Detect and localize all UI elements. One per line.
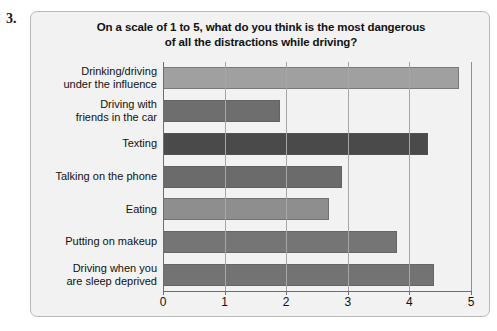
bar-row <box>163 133 471 155</box>
x-tick-label: 5 <box>468 295 475 309</box>
bar <box>163 166 342 188</box>
x-tick-label: 1 <box>221 295 228 309</box>
bar <box>163 264 434 286</box>
category-label: Texting <box>31 137 157 150</box>
bar-series <box>163 62 471 291</box>
bar-row <box>163 231 471 253</box>
chart-title-line-2: of all the distractions while driving? <box>45 35 477 50</box>
category-label: Putting on makeup <box>31 235 157 248</box>
category-label-line: Driving when you <box>31 262 157 275</box>
question-number: 3. <box>6 11 17 27</box>
category-label-line: under the influence <box>31 78 157 91</box>
category-label: Eating <box>31 203 157 216</box>
bar <box>163 67 459 89</box>
category-label-line: Driving with <box>31 98 157 111</box>
category-axis-labels: Drinking/drivingunder the influenceDrivi… <box>31 62 161 291</box>
bar <box>163 100 280 122</box>
category-label-line: Drinking/driving <box>31 65 157 78</box>
chart-title: On a scale of 1 to 5, what do you think … <box>45 20 477 50</box>
plot-area <box>163 62 471 291</box>
bar-row <box>163 166 471 188</box>
bar-row <box>163 100 471 122</box>
bar-row <box>163 198 471 220</box>
bar <box>163 133 428 155</box>
category-label: Talking on the phone <box>31 170 157 183</box>
x-tick-label: 2 <box>283 295 290 309</box>
category-label-line: Talking on the phone <box>31 170 157 183</box>
gridline-3 <box>348 62 349 291</box>
category-label: Drinking/drivingunder the influence <box>31 65 157 91</box>
x-tick-label: 3 <box>344 295 351 309</box>
x-tick-label: 4 <box>406 295 413 309</box>
category-label: Driving when youare sleep deprived <box>31 262 157 288</box>
gridline-5 <box>471 62 472 291</box>
category-label: Driving withfriends in the car <box>31 98 157 124</box>
category-label-line: are sleep deprived <box>31 275 157 288</box>
x-axis-tick-labels: 012345 <box>163 295 471 313</box>
category-label-line: friends in the car <box>31 111 157 124</box>
chart-card: On a scale of 1 to 5, what do you think … <box>30 11 490 317</box>
bar <box>163 198 329 220</box>
bar-row <box>163 67 471 89</box>
gridline-4 <box>409 62 410 291</box>
gridline-0 <box>163 62 164 291</box>
category-label-line: Eating <box>31 203 157 216</box>
category-label-line: Texting <box>31 137 157 150</box>
category-label-line: Putting on makeup <box>31 235 157 248</box>
gridline-2 <box>286 62 287 291</box>
bar <box>163 231 397 253</box>
chart-title-line-1: On a scale of 1 to 5, what do you think … <box>45 20 477 35</box>
bar-row <box>163 264 471 286</box>
x-axis-line <box>163 291 471 292</box>
screenshot-root: 3. On a scale of 1 to 5, what do you thi… <box>0 0 497 331</box>
x-tick-label: 0 <box>160 295 167 309</box>
gridline-1 <box>225 62 226 291</box>
